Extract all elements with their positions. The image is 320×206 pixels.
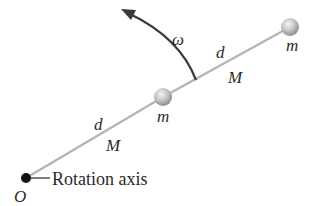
d-lower-label: d [94, 115, 103, 134]
M-upper-label: M [227, 68, 243, 87]
curved-arrow-icon [130, 14, 196, 80]
m-end-label: m [286, 36, 298, 55]
rotating-rods-diagram: ω d M m m d M Rotation axis O [0, 0, 320, 206]
pivot-point [21, 173, 31, 183]
M-lower-label: M [105, 136, 121, 155]
mass-ball-end [281, 18, 299, 36]
rod-lower [26, 97, 163, 178]
mass-ball-middle [154, 88, 172, 106]
rotation-axis-label: Rotation axis [52, 169, 148, 189]
omega-label: ω [172, 30, 184, 49]
d-upper-label: d [216, 43, 225, 62]
arrowhead-icon [121, 9, 136, 20]
origin-label: O [14, 187, 26, 206]
angular-velocity-arrow [121, 9, 196, 80]
m-middle-label: m [157, 107, 169, 126]
